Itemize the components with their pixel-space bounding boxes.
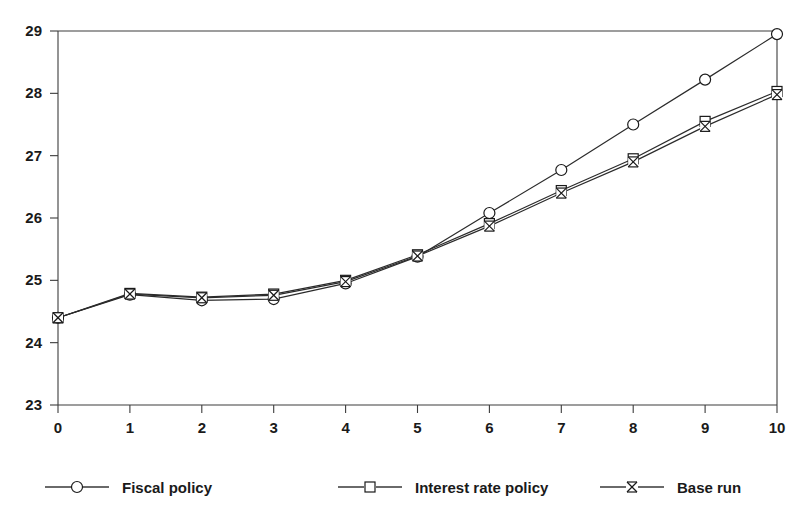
legend-item[interactable]: Interest rate policy: [338, 479, 549, 496]
y-tick-label: 27: [25, 147, 42, 164]
x-marker: [628, 157, 638, 167]
circle-marker: [700, 74, 711, 85]
x-marker: [125, 289, 135, 299]
circle-marker: [484, 208, 495, 219]
x-tick-label: 7: [557, 419, 565, 436]
line-chart: 23242526272829 012345678910 Fiscal polic…: [0, 0, 798, 520]
series-line: [58, 91, 777, 317]
x-tick-label: 0: [54, 419, 62, 436]
x-tick-label: 10: [769, 419, 786, 436]
y-tick-label: 28: [25, 84, 42, 101]
x-tick-label: 4: [341, 419, 350, 436]
circle-marker: [628, 119, 639, 130]
x-tick-label: 8: [629, 419, 637, 436]
y-axis-ticks: 23242526272829: [25, 22, 58, 413]
x-marker: [772, 90, 782, 100]
series-line: [58, 95, 777, 318]
y-tick-label: 23: [25, 396, 42, 413]
x-tick-label: 3: [270, 419, 278, 436]
circle-marker: [556, 165, 567, 176]
series-line: [58, 34, 777, 318]
legend-label: Base run: [677, 479, 741, 496]
x-marker: [484, 221, 494, 231]
x-tick-label: 1: [126, 419, 134, 436]
y-tick-label: 25: [25, 271, 42, 288]
y-tick-label: 24: [25, 334, 42, 351]
data-series: [53, 86, 782, 322]
legend-label: Interest rate policy: [415, 479, 549, 496]
legend-item[interactable]: Base run: [600, 479, 741, 496]
x-marker: [700, 121, 710, 131]
y-tick-label: 26: [25, 209, 42, 226]
x-axis-ticks: 012345678910: [54, 405, 786, 436]
x-tick-label: 5: [413, 419, 421, 436]
x-marker: [53, 313, 63, 323]
data-series: [53, 90, 782, 323]
legend-item[interactable]: Fiscal policy: [45, 479, 213, 496]
x-tick-label: 9: [701, 419, 709, 436]
square-marker: [365, 482, 375, 492]
x-marker: [341, 277, 351, 287]
data-series: [53, 29, 783, 324]
circle-marker: [72, 482, 83, 493]
x-marker: [627, 482, 637, 492]
series-group: [53, 29, 783, 324]
circle-marker: [772, 29, 783, 40]
chart-canvas: 23242526272829 012345678910 Fiscal polic…: [0, 0, 798, 520]
x-marker: [197, 293, 207, 303]
x-tick-label: 6: [485, 419, 493, 436]
chart-legend: Fiscal policyInterest rate policyBase ru…: [45, 479, 741, 496]
x-marker: [556, 188, 566, 198]
y-tick-label: 29: [25, 22, 42, 39]
plot-frame: [58, 31, 777, 405]
x-marker: [413, 251, 423, 261]
legend-label: Fiscal policy: [122, 479, 213, 496]
x-marker: [269, 290, 279, 300]
x-tick-label: 2: [198, 419, 206, 436]
